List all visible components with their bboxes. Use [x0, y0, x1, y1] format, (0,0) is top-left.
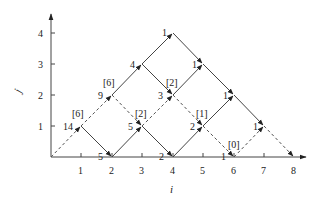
x-tick-6: 6 — [231, 165, 236, 176]
node-label-2-0: 5 — [98, 151, 103, 162]
node-label-5-1: 2 — [190, 121, 195, 132]
node-label-3-1: 5 — [128, 121, 133, 132]
solid-edge — [234, 95, 263, 125]
solid-edge — [203, 64, 233, 94]
y-ticks: 1 2 3 4 — [38, 28, 55, 132]
node-label-6-2: 1 — [223, 90, 228, 101]
node-label-4-2: 3 — [158, 90, 163, 101]
node-labels: 14 [6] 9 [6] 4 1 5 5 [2] 3 [2] 1 2 2 [1]… — [63, 27, 258, 162]
node-label-2-2: 9 — [98, 90, 103, 101]
bracket-label-5-1: [1] — [196, 108, 208, 119]
x-axis-label: i — [170, 183, 173, 195]
node-label-4-0: 2 — [159, 151, 164, 162]
y-tick-1: 1 — [38, 121, 43, 132]
x-tick-7: 7 — [261, 165, 266, 176]
node-label-7-1: 1 — [253, 121, 258, 132]
x-tick-2: 2 — [109, 165, 114, 176]
node-label-3-3: 4 — [130, 59, 135, 70]
x-tick-3: 3 — [139, 165, 144, 176]
bracket-label-4-2: [2] — [166, 77, 178, 88]
node-label-4-4: 1 — [162, 27, 167, 38]
bracket-label-3-1: [2] — [135, 108, 147, 119]
solid-edge — [173, 127, 202, 157]
solid-edge — [173, 33, 202, 63]
lattice-path-diagram: 1 2 3 4 1 2 3 4 5 6 7 8 i j — [0, 0, 316, 205]
y-tick-3: 3 — [38, 59, 43, 70]
axes: 1 2 3 4 1 2 3 4 5 6 7 8 i j — [11, 14, 306, 195]
solid-edge — [112, 65, 141, 95]
x-ticks: 1 2 3 4 5 6 7 8 — [78, 153, 296, 176]
y-tick-2: 2 — [38, 90, 43, 101]
bracket-label-1-1: [6] — [72, 108, 84, 119]
solid-edge — [142, 126, 172, 156]
y-tick-4: 4 — [38, 28, 43, 39]
solid-edge — [112, 127, 141, 157]
bracket-label-2-2: [6] — [103, 77, 115, 88]
bracket-label-6-0: [0] — [228, 139, 240, 150]
x-tick-1: 1 — [78, 165, 83, 176]
node-label-1-1: 14 — [63, 121, 73, 132]
node-label-6-0: 1 — [221, 151, 226, 162]
dashed-edge — [81, 96, 111, 126]
solid-edge — [81, 126, 111, 156]
solid-edge — [142, 34, 172, 64]
node-label-5-3: 1 — [192, 59, 197, 70]
x-tick-4: 4 — [170, 165, 175, 176]
x-tick-5: 5 — [200, 165, 205, 176]
dashed-edge — [264, 126, 293, 156]
x-tick-8: 8 — [291, 165, 296, 176]
y-axis-label: j — [11, 87, 24, 96]
